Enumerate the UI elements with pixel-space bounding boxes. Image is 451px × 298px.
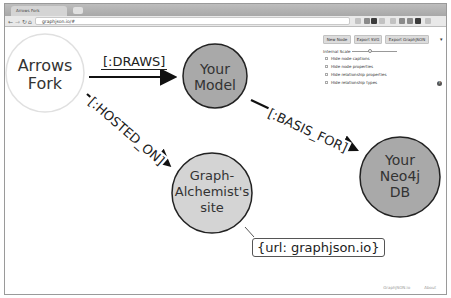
extension-icon[interactable] bbox=[364, 18, 370, 24]
option-hide-relationship-properties[interactable]: Hide relationship properties bbox=[325, 72, 387, 77]
checkbox[interactable] bbox=[325, 81, 328, 84]
option-label: Hide node captions bbox=[331, 56, 370, 61]
scale-control: Internal Scale bbox=[323, 49, 397, 54]
node-caption: Arrows Fork bbox=[6, 57, 84, 93]
caption-line: Alchemist's bbox=[172, 184, 252, 200]
option-label: Hide node properties bbox=[331, 64, 373, 69]
scale-label: Internal Scale bbox=[323, 49, 350, 54]
option-label: Hide relationship types bbox=[331, 80, 377, 85]
option-hide-node-captions[interactable]: Hide node captions bbox=[325, 56, 370, 61]
help-icon[interactable]: ? bbox=[437, 81, 442, 86]
tab-bar: Arrows Fork bbox=[5, 4, 446, 16]
extension-icon[interactable] bbox=[379, 18, 385, 24]
option-hide-relationship-types[interactable]: Hide relationship types bbox=[325, 80, 377, 85]
caption-line: Your bbox=[360, 152, 440, 168]
option-label: Hide relationship properties bbox=[331, 72, 387, 77]
caption-line: Neo4j bbox=[360, 168, 440, 184]
extension-icon[interactable] bbox=[399, 18, 405, 24]
scale-slider[interactable] bbox=[352, 51, 397, 52]
node-caption: Your Neo4j DB bbox=[360, 152, 440, 200]
reload-icon[interactable]: ↻ bbox=[22, 17, 27, 26]
browser-window: Arrows Fork ← → ↻ ⌂ graphjson.io/# bbox=[4, 3, 447, 295]
extension-icon[interactable] bbox=[415, 18, 421, 24]
footer: GraphJSON.io About bbox=[383, 285, 436, 290]
export-svg-button[interactable]: Export SVG bbox=[354, 35, 382, 44]
back-icon[interactable]: ← bbox=[8, 17, 13, 26]
footer-link-about[interactable]: About bbox=[424, 285, 436, 290]
address-bar[interactable]: graphjson.io/# bbox=[35, 17, 350, 25]
option-hide-node-properties[interactable]: Hide node properties bbox=[325, 64, 373, 69]
new-tab-button[interactable] bbox=[73, 7, 83, 14]
browser-tab[interactable]: Arrows Fork bbox=[11, 6, 67, 16]
caption-line: DB bbox=[360, 184, 440, 200]
forward-icon[interactable]: → bbox=[15, 17, 20, 26]
checkbox[interactable] bbox=[325, 65, 328, 68]
checkbox[interactable] bbox=[325, 73, 328, 76]
caption-line: site bbox=[172, 200, 252, 216]
property-connector bbox=[245, 227, 254, 237]
browser-toolbar: ← → ↻ ⌂ graphjson.io/# bbox=[5, 16, 446, 27]
extension-icon[interactable] bbox=[390, 18, 396, 24]
caption-line: Model bbox=[183, 77, 247, 93]
node-caption: Graph- Alchemist's site bbox=[172, 168, 252, 216]
extension-icon[interactable] bbox=[407, 18, 413, 24]
edge-label-draws[interactable]: [:DRAWS] bbox=[101, 54, 167, 70]
home-icon[interactable]: ⌂ bbox=[28, 17, 32, 26]
menu-icon[interactable] bbox=[425, 18, 431, 24]
new-node-button[interactable]: New Node bbox=[323, 35, 351, 44]
caption-line: Graph- bbox=[172, 168, 252, 184]
bookmark-star-icon[interactable] bbox=[355, 18, 361, 24]
graph-canvas[interactable]: Arrows Fork Your Model Your Neo4j DB Gra… bbox=[5, 27, 446, 294]
chevron-down-icon[interactable]: ▾ bbox=[440, 36, 443, 42]
caption-line: Your bbox=[183, 61, 247, 77]
checkbox[interactable] bbox=[325, 57, 328, 60]
slider-knob[interactable] bbox=[368, 49, 372, 53]
footer-link-graphjson[interactable]: GraphJSON.io bbox=[383, 285, 410, 290]
caption-line: Arrows bbox=[6, 57, 84, 75]
extension-icon[interactable] bbox=[371, 18, 377, 24]
node-property-bubble[interactable]: {url: graphjson.io} bbox=[252, 238, 385, 257]
export-graphjson-button[interactable]: Export GraphJSON bbox=[385, 35, 429, 44]
caption-line: Fork bbox=[6, 75, 84, 93]
node-caption: Your Model bbox=[183, 61, 247, 93]
